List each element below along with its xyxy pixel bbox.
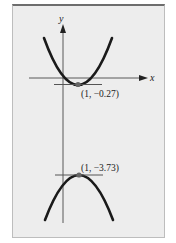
y-axis-label: y	[58, 13, 64, 24]
graph: y x (1, −0.27) (1, −3.73)	[0, 0, 176, 243]
y-axis-arrow-icon	[60, 24, 66, 33]
lower-point	[76, 172, 81, 177]
lower-point-label: (1, −3.73)	[81, 163, 119, 174]
upper-point	[75, 82, 80, 87]
x-axis-label: x	[149, 72, 155, 83]
upper-point-label: (1, −0.27)	[81, 89, 119, 100]
x-axis-arrow-icon	[139, 75, 148, 81]
lower-parabola	[45, 175, 113, 220]
